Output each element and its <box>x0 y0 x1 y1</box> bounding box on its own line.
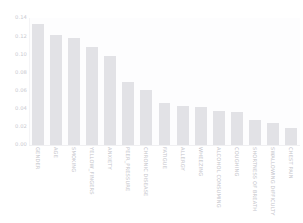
bar <box>285 128 297 145</box>
y-tick-label: 0.08 <box>1 70 27 75</box>
x-tick-label: GENDER <box>35 147 40 170</box>
y-tick-label: 0.00 <box>1 142 27 147</box>
y-axis-tick-labels: 0.140.120.100.080.060.040.020.00 <box>0 0 27 223</box>
bar <box>195 107 207 145</box>
y-tick-label: 0.14 <box>1 15 27 20</box>
x-tick-label: FATIGUE <box>161 147 166 169</box>
x-tick-label: AGE <box>53 147 58 158</box>
y-tick-label: 0.02 <box>1 124 27 129</box>
y-tick-label: 0.10 <box>1 52 27 57</box>
bar <box>122 82 134 145</box>
x-tick-label: ALCOHOL CONSUMING <box>215 147 220 208</box>
x-tick-label: YELLOW_FINGERS <box>89 147 94 195</box>
chart-title <box>42 0 162 9</box>
x-tick-label: ANXIETY <box>107 147 112 170</box>
x-tick-label: CHRONIC DISEASE <box>143 147 148 197</box>
bar <box>231 112 243 145</box>
x-tick-label: CHEST PAIN <box>288 147 293 179</box>
feature-importance-bar-chart: 0.140.120.100.080.060.040.020.00 GENDERA… <box>0 0 303 223</box>
bar <box>50 35 62 145</box>
x-tick-label: COUGHING <box>234 147 239 177</box>
bar <box>267 123 279 145</box>
x-tick-label: SMOKING <box>71 147 76 172</box>
y-tick-label: 0.12 <box>1 34 27 39</box>
bar <box>177 106 189 145</box>
x-tick-label: ALLERGY <box>179 147 184 171</box>
bar <box>159 103 171 145</box>
bar <box>213 111 225 145</box>
bar <box>249 120 261 145</box>
y-tick-label: 0.04 <box>1 106 27 111</box>
bar <box>104 56 116 145</box>
x-axis-line <box>29 145 300 146</box>
y-tick-label: 0.06 <box>1 88 27 93</box>
bar <box>68 38 80 145</box>
bar <box>86 47 98 145</box>
bar <box>140 90 152 145</box>
bars-layer <box>29 18 300 145</box>
x-tick-label: WHEEZING <box>197 147 202 176</box>
x-axis-tick-labels: GENDERAGESMOKINGYELLOW_FINGERSANXIETYPEE… <box>29 147 300 223</box>
x-tick-label: PEER_PRESSURE <box>125 147 130 191</box>
bar <box>32 24 44 145</box>
x-tick-label: SHORTNESS OF BREATH <box>252 147 257 211</box>
x-tick-label: SWALLOWING DIFFICULTY <box>270 147 275 215</box>
